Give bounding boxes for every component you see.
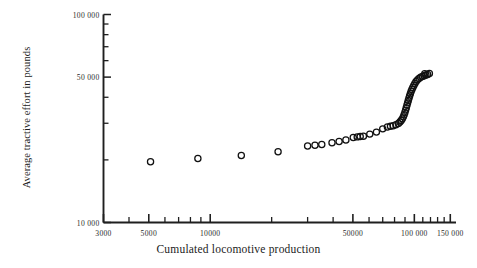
data-point-marker [238,152,244,158]
x-tick-label: 5000 [141,229,157,238]
x-tick-label: 100 000 [401,229,428,238]
data-point-marker [373,129,379,135]
x-tick-label: 50000 [343,229,363,238]
data-point-marker [147,159,153,165]
x-tick-label: 3000 [95,229,111,238]
x-tick-label: 10000 [200,229,220,238]
y-tick-label: 100 000 [73,10,100,19]
y-tick-label: 10 000 [77,218,100,227]
data-point-marker [195,155,201,161]
x-tick-label: 150 000 [437,229,464,238]
data-point-marker [336,138,342,144]
data-point-marker [367,131,373,137]
chart-figure: Average tractive effort in pounds Cumula… [0,0,477,268]
data-point-marker [319,141,325,147]
y-tick-label: 50 000 [77,73,100,82]
data-point-marker [343,137,349,143]
data-point-marker [305,143,311,149]
data-point-marker [312,142,318,148]
data-point-marker [329,140,335,146]
data-point-marker [275,149,281,155]
